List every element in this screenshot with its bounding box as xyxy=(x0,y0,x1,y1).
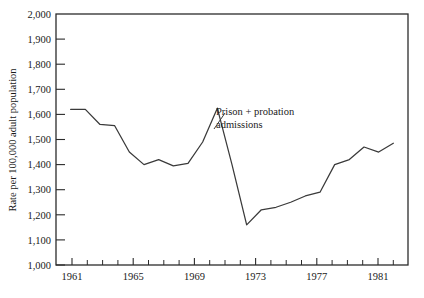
y-axis-title: Rate per 100,000 adult population xyxy=(7,68,18,212)
plot-frame xyxy=(56,14,408,265)
y-axis-ticks xyxy=(56,39,65,265)
x-axis-ticks xyxy=(72,258,393,265)
y-tick-label-2000: 2,000 xyxy=(27,9,51,20)
annotation-line-1: Prison + probation xyxy=(216,106,295,117)
y-tick-label-1500: 1,500 xyxy=(27,134,51,145)
x-tick-label-1961: 1961 xyxy=(62,271,83,282)
annotation-text-group: Prison + probation admissions xyxy=(216,106,295,130)
y-tick-label-1400: 1,400 xyxy=(27,159,51,170)
y-tick-label-1600: 1,600 xyxy=(27,109,51,120)
x-tick-label-1965: 1965 xyxy=(123,271,144,282)
y-tick-label-1300: 1,300 xyxy=(27,184,51,195)
y-tick-label-1100: 1,100 xyxy=(27,235,51,246)
annotation-line-2: admissions xyxy=(216,119,263,130)
y-tick-label-1000: 1,000 xyxy=(27,260,51,271)
x-tick-label-1977: 1977 xyxy=(306,271,327,282)
y-tick-label-1800: 1,800 xyxy=(27,59,51,70)
y-tick-label-1700: 1,700 xyxy=(27,84,51,95)
x-tick-label-1973: 1973 xyxy=(245,271,266,282)
x-tick-label-1981: 1981 xyxy=(368,271,389,282)
x-axis-tick-labels: 1961 1965 1969 1973 1977 1981 xyxy=(62,271,389,282)
x-tick-label-1969: 1969 xyxy=(184,271,205,282)
y-tick-label-1200: 1,200 xyxy=(27,210,51,221)
y-tick-label-1900: 1,900 xyxy=(27,34,51,45)
chart-figure: 1,000 1,100 1,200 1,300 1,400 1,500 1,60… xyxy=(0,0,424,298)
line-chart: 1,000 1,100 1,200 1,300 1,400 1,500 1,60… xyxy=(0,0,424,298)
y-axis-title-text: Rate per 100,000 adult population xyxy=(7,68,18,212)
y-axis-tick-labels: 1,000 1,100 1,200 1,300 1,400 1,500 1,60… xyxy=(27,9,51,271)
